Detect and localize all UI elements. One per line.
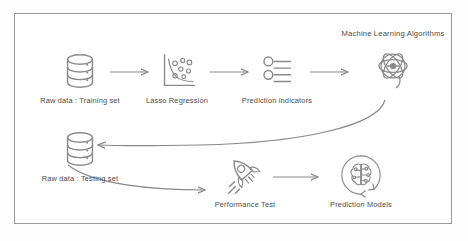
node-label: Raw data : Training set [40,97,120,105]
database-icon [57,48,103,94]
workflow-diagram: Raw data : Training set Lasso Regression… [0,0,468,241]
node-performance-test[interactable]: Performance Test [197,152,293,209]
node-raw-data-training-set[interactable]: Raw data : Training set [32,48,128,105]
node-label: Prediction indicators [242,97,312,105]
atom-icon [368,41,418,91]
scatter-chart-icon [154,48,200,94]
node-label: Machine Learning Algorithms [342,30,445,38]
node-raw-data-testing-set[interactable]: Raw data : Testing set [32,126,128,183]
node-label: Performance Test [215,201,276,209]
node-lasso-regression[interactable]: Lasso Regression [129,48,225,105]
node-prediction-models[interactable]: Prediction Models [313,152,409,209]
node-label: Lasso Regression [146,97,208,105]
node-label: Raw data : Testing set [42,175,119,183]
database-icon [57,126,103,172]
brain-circuit-icon [338,152,384,198]
rocket-icon [222,152,268,198]
node-label: Prediction Models [330,201,392,209]
node-prediction-indicators[interactable]: Prediction indicators [229,48,325,105]
node-machine-learning-algorithms[interactable]: Machine Learning Algorithms [330,30,456,91]
sliders-icon [254,48,300,94]
